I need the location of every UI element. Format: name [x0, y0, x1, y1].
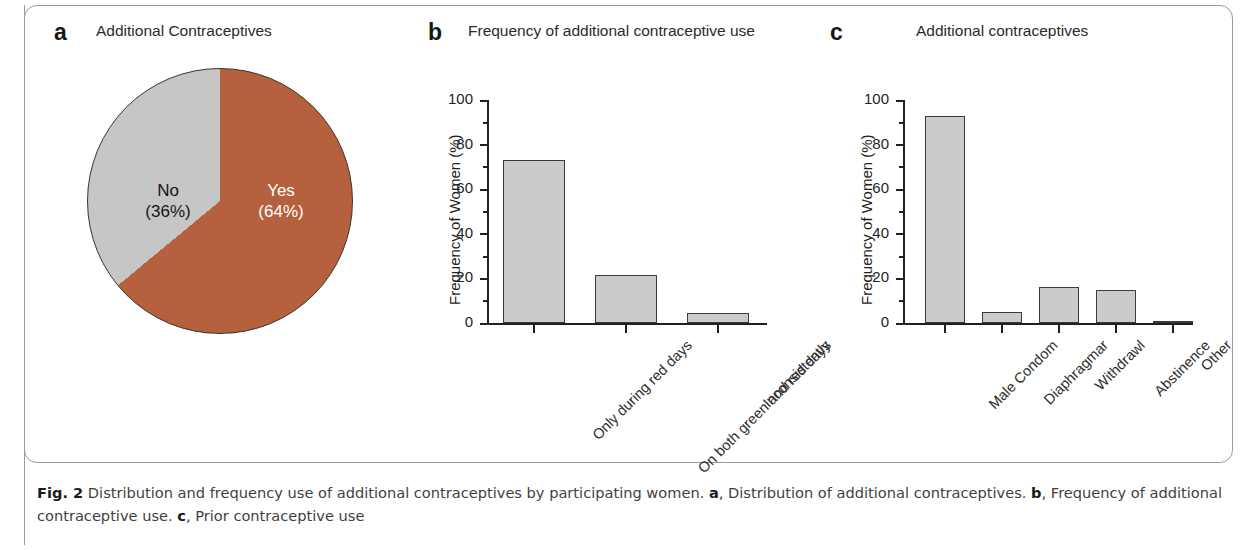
x-tick-label: Inconsistently: [760, 337, 833, 410]
bar: [982, 312, 1022, 323]
y-tick-minor: [483, 166, 488, 168]
bar: [925, 116, 965, 323]
y-tick-minor: [483, 300, 488, 302]
y-tick-major: [896, 233, 904, 235]
pie-slice-label-yes-name: Yes: [267, 181, 295, 200]
y-tick-major: [480, 189, 488, 191]
bar: [687, 313, 749, 323]
y-tick-major: [480, 278, 488, 280]
x-tick: [625, 325, 627, 333]
caption-tag-c: c: [177, 507, 186, 524]
figure-caption: Fig. 2 Distribution and frequency use of…: [37, 482, 1237, 527]
y-tick-major: [896, 144, 904, 146]
pie-slice-label-yes-percent: (64%): [235, 202, 327, 223]
panel-a-letter: a: [54, 19, 67, 46]
pie-slice-label-no-name: No: [157, 181, 179, 200]
y-tick-major: [896, 189, 904, 191]
panel-a-title: Additional Contraceptives: [96, 22, 272, 40]
caption-tag-b: b: [1031, 484, 1041, 501]
panel-b: b Frequency of additional contraceptive …: [424, 5, 828, 460]
pie-chart-additional-contraceptives: Yes (64%) No (36%): [87, 68, 353, 334]
pie-slice-label-no: No (36%): [125, 181, 211, 222]
y-tick-major: [480, 233, 488, 235]
x-tick: [1172, 325, 1174, 333]
y-tick-label: 0: [847, 313, 889, 330]
panel-c: c Additional contraceptives Frequency of…: [828, 5, 1233, 460]
x-tick: [1058, 325, 1060, 333]
y-tick-label: 80: [847, 135, 889, 152]
x-tick: [717, 325, 719, 333]
bar: [595, 275, 657, 323]
caption-sentence-2: , Distribution of additional contracepti…: [719, 484, 1031, 501]
y-tick-minor: [899, 166, 904, 168]
bar: [1039, 287, 1079, 323]
y-tick-label: 60: [431, 179, 473, 196]
x-tick: [1115, 325, 1117, 333]
y-tick-label: 100: [431, 90, 473, 107]
y-tick-major: [480, 144, 488, 146]
caption-sentence-1: Distribution and frequency use of additi…: [83, 484, 709, 501]
y-tick-major: [480, 323, 488, 325]
y-tick-major: [480, 100, 488, 102]
caption-figure-number: Fig. 2: [37, 484, 83, 501]
x-tick: [1001, 325, 1003, 333]
y-tick-minor: [899, 300, 904, 302]
x-axis-line: [903, 323, 1193, 325]
pie-slice-label-yes: Yes (64%): [235, 181, 327, 222]
y-tick-major: [896, 278, 904, 280]
y-tick-label: 60: [847, 179, 889, 196]
y-tick-label: 20: [431, 268, 473, 285]
y-tick-minor: [899, 122, 904, 124]
y-tick-minor: [483, 211, 488, 213]
bar-chart-prior-contraceptive-use: Frequency of Women (%) 020406080100Male …: [828, 5, 1233, 460]
y-tick-major: [896, 100, 904, 102]
y-tick-minor: [899, 256, 904, 258]
y-tick-label: 20: [847, 268, 889, 285]
bar: [1096, 290, 1136, 323]
caption-sentence-4: , Prior contraceptive use: [186, 507, 364, 524]
x-axis-line: [487, 323, 767, 325]
y-tick-label: 0: [431, 313, 473, 330]
y-tick-label: 80: [431, 135, 473, 152]
pie-slice-label-no-percent: (36%): [125, 202, 211, 223]
y-tick-label: 40: [847, 224, 889, 241]
y-tick-major: [896, 323, 904, 325]
y-tick-label: 100: [847, 90, 889, 107]
y-tick-minor: [899, 211, 904, 213]
x-tick: [533, 325, 535, 333]
y-tick-minor: [483, 122, 488, 124]
x-tick-label: Only during red days: [589, 337, 695, 443]
bar-chart-frequency-of-use: Frequency of Women (%) 020406080100Only …: [424, 5, 828, 460]
bar: [503, 160, 565, 323]
bar: [1153, 321, 1193, 323]
y-tick-minor: [483, 256, 488, 258]
panel-a: a Additional Contraceptives Yes (64%) No…: [24, 5, 424, 460]
y-tick-label: 40: [431, 224, 473, 241]
figure-2-root: a Additional Contraceptives Yes (64%) No…: [0, 0, 1245, 550]
caption-tag-a: a: [709, 484, 719, 501]
x-tick: [944, 325, 946, 333]
